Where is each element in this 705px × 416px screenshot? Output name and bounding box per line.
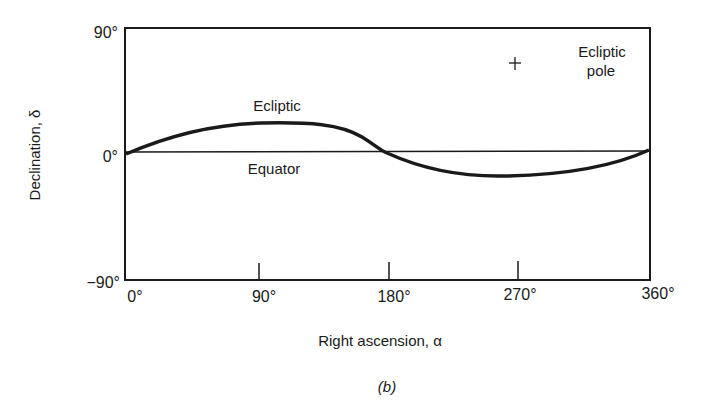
- x-axis-label: Right ascension, α: [318, 332, 442, 349]
- y-tick-0: 0°: [103, 148, 118, 165]
- x-tick-360: 360°: [641, 285, 674, 302]
- y-axis-label: Declination, δ: [26, 110, 43, 201]
- ecliptic-curve: [126, 123, 649, 176]
- figure-caption: (b): [378, 378, 396, 395]
- y-tick-90: 90°: [94, 24, 118, 41]
- x-tick-0: 0°: [127, 288, 142, 305]
- x-tick-90: 90°: [252, 288, 276, 305]
- ecliptic-pole-marker: [509, 57, 521, 70]
- equator-label: Equator: [248, 160, 301, 177]
- x-tick-270: 270°: [503, 286, 536, 303]
- chart: 90° 0° −90° 0° 90° 180° 270° 360° Eclipt…: [0, 0, 705, 416]
- ecliptic-pole-label-1: Ecliptic: [578, 43, 626, 60]
- ecliptic-pole-label-2: pole: [587, 62, 615, 79]
- x-tick-180: 180°: [377, 288, 410, 305]
- y-tick-neg90: −90°: [86, 274, 120, 291]
- ecliptic-label: Ecliptic: [253, 97, 301, 114]
